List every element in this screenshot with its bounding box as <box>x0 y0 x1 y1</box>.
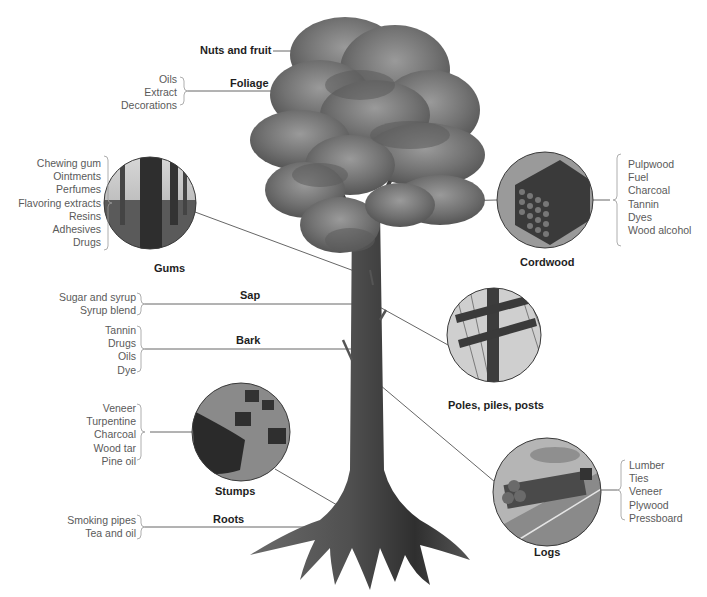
product-item: Resins <box>18 210 101 223</box>
product-item: Chewing gum <box>18 157 101 170</box>
product-item: Sugar and syrup <box>59 291 136 304</box>
product-item: Wood tar <box>86 442 136 455</box>
product-item: Tannin <box>105 324 136 337</box>
product-item: Turpentine <box>86 415 136 428</box>
product-item: Fuel <box>628 171 691 184</box>
product-item: Charcoal <box>628 184 691 197</box>
product-item: Dye <box>105 364 136 377</box>
stumps-products: Veneer Turpentine Charcoal Wood tar Pine… <box>86 402 136 468</box>
product-item: Lumber <box>629 459 683 472</box>
product-item: Perfumes <box>18 183 101 196</box>
gums-circle-image <box>100 155 200 255</box>
product-item: Flavoring extracts <box>18 197 101 210</box>
product-item: Pressboard <box>629 512 683 525</box>
gums-products: Chewing gum Ointments Perfumes Flavoring… <box>18 157 101 249</box>
label-gums: Gums <box>154 262 185 274</box>
label-logs: Logs <box>534 546 560 558</box>
label-sap: Sap <box>240 289 260 301</box>
product-item: Dyes <box>628 211 691 224</box>
product-item: Decorations <box>121 99 177 112</box>
product-item: Extract <box>121 86 177 99</box>
roots-products: Smoking pipes Tea and oil <box>67 514 136 540</box>
product-item: Oils <box>105 350 136 363</box>
label-foliage: Foliage <box>230 77 269 89</box>
product-item: Tannin <box>628 198 691 211</box>
label-cordwood: Cordwood <box>520 256 574 268</box>
product-item: Ties <box>629 472 683 485</box>
product-item: Ointments <box>18 170 101 183</box>
cordwood-products: Pulpwood Fuel Charcoal Tannin Dyes Wood … <box>628 158 691 237</box>
product-item: Veneer <box>629 485 683 498</box>
sap-products: Sugar and syrup Syrup blend <box>59 291 136 317</box>
product-item: Syrup blend <box>59 304 136 317</box>
product-item: Drugs <box>18 236 101 249</box>
product-item: Drugs <box>105 337 136 350</box>
product-item: Pine oil <box>86 455 136 468</box>
product-item: Oils <box>121 73 177 86</box>
product-item: Charcoal <box>86 428 136 441</box>
label-bark: Bark <box>236 334 260 346</box>
cordwood-circle-image <box>495 150 595 250</box>
product-item: Wood alcohol <box>628 224 691 237</box>
product-item: Pulpwood <box>628 158 691 171</box>
trunk-and-roots <box>250 210 470 590</box>
foliage-products: Oils Extract Decorations <box>121 73 177 113</box>
product-item: Plywood <box>629 499 683 512</box>
product-item: Smoking pipes <box>67 514 136 527</box>
label-nuts-and-fruit: Nuts and fruit <box>200 44 272 56</box>
tree-products-diagram: Nuts and fruit Foliage Gums Cordwood Sap… <box>0 0 707 597</box>
product-item: Veneer <box>86 402 136 415</box>
bark-products: Tannin Drugs Oils Dye <box>105 324 136 377</box>
logs-products: Lumber Ties Veneer Plywood Pressboard <box>629 459 683 525</box>
label-stumps: Stumps <box>215 485 255 497</box>
product-item: Tea and oil <box>67 527 136 540</box>
label-poles-piles-posts: Poles, piles, posts <box>448 399 544 411</box>
poles-circle-image <box>445 285 545 385</box>
product-item: Adhesives <box>18 223 101 236</box>
stumps-circle-image <box>190 380 295 485</box>
label-roots: Roots <box>213 513 244 525</box>
